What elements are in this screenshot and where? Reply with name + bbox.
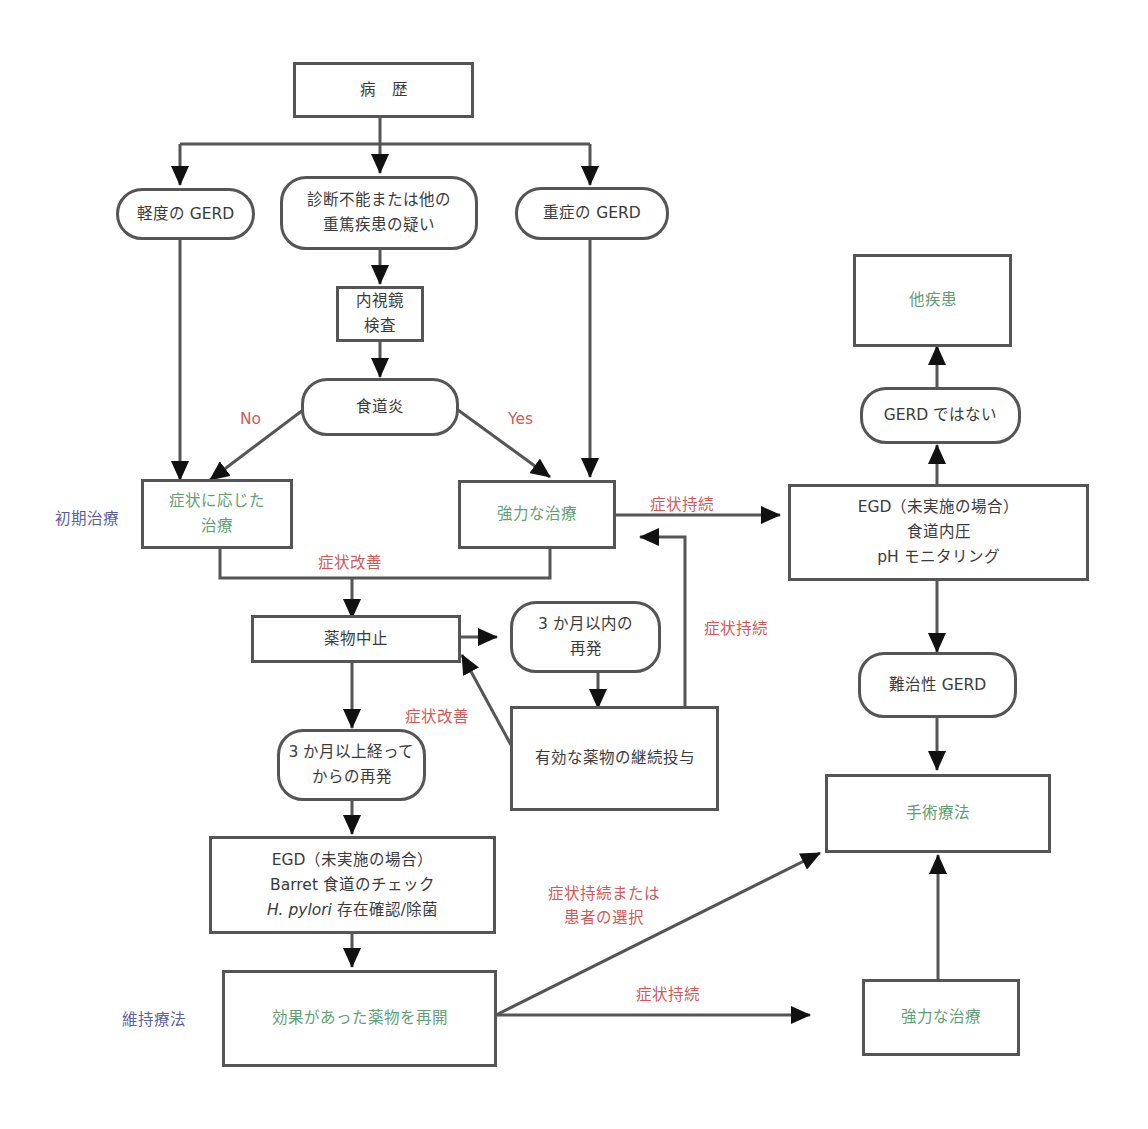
h-pylori-text: H. pylori [267, 901, 332, 919]
node-intensive-text: 強力な治療 [497, 502, 577, 527]
node-egd-check-line2: Barret 食道のチェック [270, 873, 435, 898]
node-resume-drug-text: 効果があった薬物を再開 [272, 1006, 448, 1031]
label-maintenance: 維持療法 [122, 1008, 186, 1032]
node-stop-drug: 薬物中止 [251, 615, 461, 663]
node-uncertain-line2: 重篤疾患の疑い [323, 213, 435, 238]
label-improved-2: 症状改善 [405, 705, 469, 729]
label-initial-treatment: 初期治療 [55, 507, 119, 531]
node-egd-tests-line2: 食道内圧 [907, 520, 971, 545]
node-intensive-treatment: 強力な治療 [458, 480, 616, 549]
node-egd-check-line1: EGD（未実施の場合） [272, 848, 434, 873]
label-persist-1: 症状持続 [650, 493, 714, 517]
node-other-disease: 他疾患 [853, 254, 1012, 347]
node-continue-drug: 有効な薬物の継続投与 [510, 706, 719, 811]
node-refractory-text: 難治性 GERD [889, 673, 986, 698]
node-egd-tests-line1: EGD（未実施の場合） [858, 495, 1020, 520]
node-history: 病 歴 [293, 62, 474, 118]
node-relapse-within-line2: 再発 [570, 637, 602, 662]
label-persist-3: 症状持続 [636, 983, 700, 1007]
node-mild-gerd: 軽度の GERD [116, 188, 255, 240]
node-relapse-within-3m: 3 か月以内の 再発 [510, 601, 661, 673]
node-severe-gerd-text: 重症の GERD [543, 201, 640, 226]
node-esophagitis-text: 食道炎 [356, 395, 404, 420]
h-pylori-rest: 存在確認/除菌 [332, 901, 438, 919]
node-symptomatic-line1: 症状に応じた [169, 489, 265, 514]
node-resume-drug: 効果があった薬物を再開 [222, 970, 497, 1067]
label-no: No [240, 407, 261, 431]
label-persist-or-choice: 症状持続または 患者の選択 [548, 882, 660, 930]
node-surgery-text: 手術療法 [906, 801, 970, 826]
label-yes: Yes [508, 407, 533, 431]
node-severe-gerd: 重症の GERD [515, 187, 669, 240]
node-continue-drug-text: 有効な薬物の継続投与 [535, 746, 695, 771]
node-egd-tests: EGD（未実施の場合） 食道内圧 pH モニタリング [788, 484, 1089, 581]
node-symptomatic-line2: 治療 [201, 514, 233, 539]
label-improved-1: 症状改善 [318, 551, 382, 575]
node-egd-check: EGD（未実施の場合） Barret 食道のチェック H. pylori 存在確… [209, 836, 496, 934]
node-relapse-after-line1: 3 か月以上経って [289, 740, 415, 765]
node-symptomatic-treatment: 症状に応じた 治療 [141, 479, 293, 549]
node-history-text: 病 歴 [360, 78, 408, 103]
gerd-flowchart: 病 歴 軽度の GERD 診断不能または他の 重篤疾患の疑い 重症の GERD … [0, 0, 1148, 1129]
node-stop-drug-text: 薬物中止 [324, 627, 388, 652]
label-persist-or-choice-line1: 症状持続または [548, 882, 660, 906]
node-endoscopy: 内視鏡 検査 [336, 286, 424, 342]
node-not-gerd: GERD ではない [860, 387, 1021, 444]
node-relapse-after-3m: 3 か月以上経って からの再発 [277, 729, 426, 801]
node-endoscopy-line1: 内視鏡 [356, 289, 404, 314]
node-relapse-within-line1: 3 か月以内の [538, 612, 633, 637]
node-egd-check-line3: H. pylori 存在確認/除菌 [267, 898, 438, 923]
label-persist-or-choice-line2: 患者の選択 [548, 906, 660, 930]
label-persist-2: 症状持続 [704, 617, 768, 641]
node-intensive-treatment-2: 強力な治療 [862, 979, 1020, 1056]
node-not-gerd-text: GERD ではない [884, 403, 997, 428]
node-relapse-after-line2: からの再発 [312, 765, 392, 790]
node-esophagitis: 食道炎 [301, 378, 459, 436]
node-other-disease-text: 他疾患 [909, 288, 957, 313]
node-intensive-2-text: 強力な治療 [901, 1005, 981, 1030]
node-uncertain-diagnosis: 診断不能または他の 重篤疾患の疑い [280, 176, 478, 250]
node-uncertain-line1: 診断不能または他の [307, 188, 451, 213]
node-mild-gerd-text: 軽度の GERD [137, 202, 234, 227]
node-surgery: 手術療法 [825, 774, 1051, 853]
node-egd-tests-line3: pH モニタリング [877, 545, 999, 570]
node-endoscopy-line2: 検査 [364, 314, 396, 339]
node-refractory-gerd: 難治性 GERD [858, 652, 1017, 718]
